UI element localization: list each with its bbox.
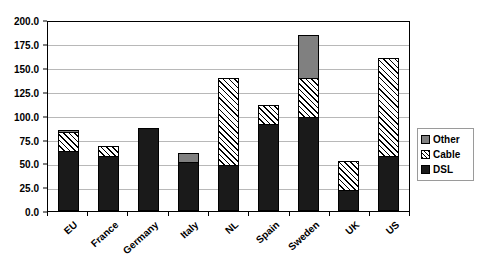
x-tick-mark-0 xyxy=(47,212,48,216)
bar-group-germany xyxy=(138,22,159,211)
bar-group-sweden xyxy=(298,22,319,211)
y-axis: 200.0 175.0 150.0 125.0 100.0 75.0 50.0 … xyxy=(0,0,44,271)
y-tick-label-100: 100.0 xyxy=(14,112,39,123)
bar-segment-us-dsl xyxy=(378,156,399,211)
y-tick-label-125: 125.0 xyxy=(14,88,39,99)
plot-area xyxy=(47,21,410,212)
chart-legend: Other Cable DSL xyxy=(417,128,474,181)
bar-segment-nl-cable xyxy=(218,78,239,166)
bar-segment-us-cable xyxy=(378,58,399,157)
bar-segment-spain-cable xyxy=(258,105,279,125)
bar-group-uk xyxy=(338,22,359,211)
legend-item-other: Other xyxy=(421,132,471,147)
bar-segment-eu-cable xyxy=(58,132,79,153)
y-tick-label-200: 200.0 xyxy=(14,16,39,27)
legend-item-dsl: DSL xyxy=(421,162,471,177)
bar-segment-nl-dsl xyxy=(218,165,239,211)
y-tick-label-0: 0.0 xyxy=(25,207,39,218)
y-tick-label-25: 25.0 xyxy=(20,183,39,194)
bar-segment-germany-dsl xyxy=(138,128,159,211)
bar-group-spain xyxy=(258,22,279,211)
stacked-bar-chart: 200.0 175.0 150.0 125.0 100.0 75.0 50.0 … xyxy=(0,0,478,271)
bar-segment-sweden-other xyxy=(298,35,319,78)
legend-swatch-other-icon xyxy=(421,135,430,144)
legend-item-cable: Cable xyxy=(421,147,471,162)
bar-segment-sweden-dsl xyxy=(298,117,319,212)
bar-segment-france-dsl xyxy=(98,156,119,211)
legend-label-cable: Cable xyxy=(433,150,460,160)
bar-group-nl xyxy=(218,22,239,211)
legend-swatch-cable-icon xyxy=(421,150,430,159)
bar-group-france xyxy=(98,22,119,211)
bar-segment-eu-dsl xyxy=(58,151,79,211)
bar-segment-uk-cable xyxy=(338,161,359,191)
legend-label-dsl: DSL xyxy=(433,165,453,175)
bar-segment-spain-dsl xyxy=(258,124,279,211)
y-tick-label-150: 150.0 xyxy=(14,64,39,75)
bars-layer xyxy=(48,22,409,211)
bar-segment-sweden-cable xyxy=(298,78,319,118)
legend-label-other: Other xyxy=(433,135,460,145)
y-tick-label-50: 50.0 xyxy=(20,159,39,170)
y-tick-label-175: 175.0 xyxy=(14,40,39,51)
bar-group-us xyxy=(378,22,399,211)
bar-group-italy xyxy=(178,22,199,211)
y-tick-label-75: 75.0 xyxy=(20,136,39,147)
bar-group-eu xyxy=(58,22,79,211)
legend-swatch-dsl-icon xyxy=(421,165,430,174)
